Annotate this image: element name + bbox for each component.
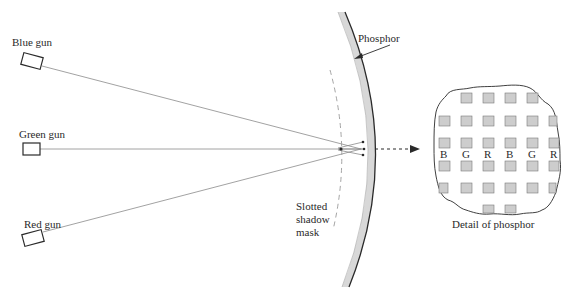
- detail-arrow: [375, 145, 420, 153]
- phosphor-label: Phosphor: [358, 32, 400, 44]
- blue-gun-icon: [21, 53, 43, 70]
- detail-letter-g1: G: [462, 149, 470, 160]
- phosphor-detail-outline: [434, 85, 561, 215]
- phosphor-pointer: [361, 45, 390, 56]
- crt-shadow-mask-diagram: Blue gun Green gun Red gun Slotted shado…: [0, 0, 581, 295]
- blue-gun-label: Blue gun: [12, 36, 52, 48]
- detail-letter-r2: R: [550, 149, 557, 160]
- detail-letter-r1: R: [484, 149, 491, 160]
- green-gun-icon: [23, 143, 40, 155]
- detail-letter-g2: G: [528, 149, 536, 160]
- phosphor-screen: [338, 12, 376, 287]
- red-gun-label: Red gun: [24, 218, 61, 230]
- diagram-graphics: [0, 0, 581, 295]
- detail-caption: Detail of phosphor: [452, 218, 534, 230]
- red-gun-icon: [22, 230, 44, 247]
- detail-letter-b2: B: [506, 149, 513, 160]
- green-gun-label: Green gun: [19, 128, 65, 140]
- blue-beam: [42, 66, 361, 149]
- detail-letter-b1: B: [440, 149, 447, 160]
- shadow-mask-label: Slotted shadow mask: [296, 200, 330, 239]
